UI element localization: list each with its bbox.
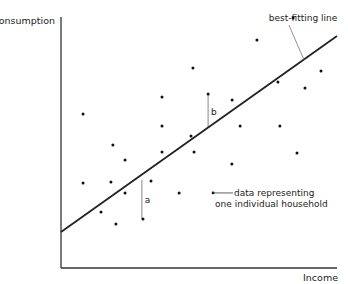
household-data-point: [189, 134, 192, 137]
household-data-point: [114, 223, 117, 226]
household-data-point: [255, 39, 258, 42]
household-data-point: [100, 211, 103, 214]
household-data-point: [124, 191, 127, 194]
household-data-point: [161, 151, 164, 154]
household-data-point: [319, 69, 322, 72]
household-data-point: [124, 159, 127, 162]
household-data-point: [303, 87, 306, 90]
household-data-point: [295, 152, 298, 155]
household-data-point: [207, 93, 210, 96]
household-data-point: [82, 181, 85, 184]
residual-group: ab: [142, 94, 217, 219]
household-data-point: [161, 96, 164, 99]
x-axis-label: Income: [303, 272, 338, 283]
best-fitting-line-label: best-fitting line: [269, 13, 338, 23]
household-data-point: [178, 191, 181, 194]
household-data-point: [278, 124, 281, 127]
household-data-point: [111, 144, 114, 147]
household-data-point: [193, 151, 196, 154]
household-data-point: [161, 124, 164, 127]
household-data-point: [276, 81, 279, 84]
legend-label-line-1: data representing: [234, 188, 314, 198]
household-data-point: [149, 179, 152, 182]
household-data-point: [141, 218, 144, 221]
best-fitting-line-callout: [289, 25, 304, 60]
household-data-point: [230, 163, 233, 166]
household-data-point: [82, 112, 85, 115]
household-data-point: [231, 99, 234, 102]
y-axis-label: Consumption: [0, 15, 55, 26]
household-data-point: [109, 180, 112, 183]
legend-label-line-2: one individual household: [215, 199, 328, 209]
scatter-chart: Consumption Income ab best-fitting line …: [0, 0, 348, 284]
household-data-point: [292, 17, 295, 20]
residual-b-label: b: [211, 107, 217, 117]
household-data-point: [191, 66, 194, 69]
household-data-point: [239, 124, 242, 127]
residual-a-label: a: [145, 195, 151, 205]
legend-callout: data representing one individual househo…: [212, 188, 328, 209]
